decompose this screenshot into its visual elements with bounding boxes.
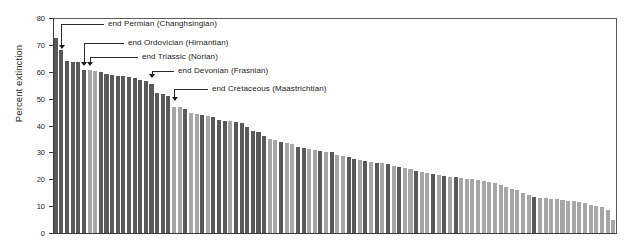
bar bbox=[211, 117, 215, 233]
bar bbox=[482, 181, 486, 233]
bar bbox=[386, 164, 390, 233]
bar bbox=[217, 120, 221, 233]
bar bbox=[307, 149, 311, 233]
bar bbox=[121, 76, 125, 233]
y-axis-spine bbox=[53, 18, 54, 234]
bar bbox=[313, 150, 317, 233]
plot-area bbox=[53, 18, 616, 233]
bar bbox=[54, 38, 58, 233]
bar bbox=[104, 74, 108, 233]
bar bbox=[290, 144, 294, 233]
bar bbox=[149, 84, 153, 233]
bar bbox=[499, 185, 503, 233]
bar bbox=[127, 77, 131, 233]
annotation-leader-jog bbox=[84, 43, 92, 44]
bar bbox=[116, 76, 120, 233]
bar bbox=[549, 199, 553, 233]
bar bbox=[515, 190, 519, 233]
bar bbox=[228, 121, 232, 233]
bar bbox=[611, 220, 615, 233]
bar bbox=[487, 182, 491, 233]
y-tick-label: 10 bbox=[29, 202, 45, 211]
y-tick-label: 0 bbox=[29, 229, 45, 238]
y-tick-label: 80 bbox=[29, 14, 45, 23]
y-tick-label: 30 bbox=[29, 148, 45, 157]
bar bbox=[166, 96, 170, 233]
bar bbox=[583, 203, 587, 233]
bar bbox=[76, 62, 80, 233]
bar bbox=[296, 147, 300, 233]
plot-frame-right bbox=[616, 18, 617, 234]
annotation-arrow-icon bbox=[172, 97, 178, 101]
bar bbox=[93, 71, 97, 233]
plot-frame-top bbox=[53, 18, 616, 19]
bar bbox=[161, 94, 165, 233]
bar bbox=[189, 113, 193, 233]
bar bbox=[330, 152, 334, 233]
bar bbox=[200, 115, 204, 233]
bar bbox=[397, 167, 401, 233]
bar bbox=[133, 78, 137, 233]
annotation-label: end Permian (Changhsingian) bbox=[108, 19, 217, 28]
bar bbox=[375, 163, 379, 233]
annotation-label: end Cretaceous (Maastrichtian) bbox=[212, 84, 327, 93]
bar bbox=[273, 140, 277, 233]
annotation-leader-v bbox=[61, 24, 62, 45]
bar bbox=[465, 179, 469, 233]
bar bbox=[403, 168, 407, 233]
annotation-leader-v bbox=[174, 89, 175, 97]
bar bbox=[302, 148, 306, 233]
bar bbox=[352, 159, 356, 233]
bar bbox=[240, 123, 244, 233]
bar bbox=[223, 121, 227, 233]
bar bbox=[363, 161, 367, 233]
bar bbox=[577, 202, 581, 233]
bar bbox=[285, 143, 289, 233]
bar bbox=[234, 122, 238, 233]
bar bbox=[606, 210, 610, 233]
bar bbox=[144, 81, 148, 233]
bar bbox=[195, 114, 199, 233]
bar bbox=[572, 201, 576, 233]
bar bbox=[318, 151, 322, 233]
annotation-leader-jog bbox=[61, 24, 66, 25]
y-axis-label: Percent extinction bbox=[13, 4, 24, 164]
bar bbox=[262, 136, 266, 233]
bar bbox=[454, 177, 458, 233]
bar bbox=[65, 61, 69, 233]
annotation-leader-jog bbox=[174, 89, 180, 90]
bar bbox=[268, 139, 272, 233]
bar bbox=[431, 174, 435, 233]
bar bbox=[110, 75, 114, 233]
bar bbox=[442, 176, 446, 233]
annotation-leader-h bbox=[66, 24, 104, 25]
bar bbox=[183, 109, 187, 233]
x-axis-spine bbox=[53, 233, 617, 234]
bar bbox=[476, 180, 480, 233]
bar bbox=[527, 195, 531, 233]
bar bbox=[589, 205, 593, 233]
bar bbox=[335, 155, 339, 233]
annotation-label: end Triassic (Norian) bbox=[142, 52, 218, 61]
bar bbox=[470, 179, 474, 233]
bar bbox=[256, 132, 260, 233]
bar bbox=[59, 50, 63, 233]
bar bbox=[358, 160, 362, 233]
annotation-leader-h bbox=[159, 71, 174, 72]
annotation-arrow-icon bbox=[149, 74, 155, 78]
bar bbox=[566, 201, 570, 233]
bar bbox=[600, 207, 604, 233]
bar bbox=[341, 156, 345, 233]
y-tick-label: 60 bbox=[29, 67, 45, 76]
bar bbox=[448, 177, 452, 233]
bar bbox=[437, 175, 441, 233]
bar bbox=[555, 199, 559, 233]
bar bbox=[82, 70, 86, 233]
annotation-label: end Ordovician (Hirnantian) bbox=[128, 38, 229, 47]
y-tick-label: 50 bbox=[29, 94, 45, 103]
bar bbox=[408, 169, 412, 234]
bar bbox=[420, 172, 424, 233]
bar bbox=[138, 80, 142, 233]
bar bbox=[369, 162, 373, 233]
bar bbox=[544, 198, 548, 233]
